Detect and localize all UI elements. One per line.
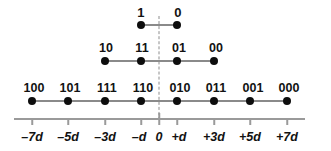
row-2-label-3: 00 [209,42,223,55]
row-2-point-0 [101,57,109,65]
axis-tick-2 [104,118,106,125]
row-1-point-1 [173,21,181,29]
row-3-point-5 [210,97,218,105]
axis-tick-label-4: 0 [156,131,163,144]
axis-tick-1 [67,118,69,125]
row-3-label-0: 100 [23,82,44,95]
row-2-point-1 [137,57,145,65]
row-1-label-1: 0 [174,6,181,19]
axis-tick-label-1: –5d [57,131,79,144]
axis-tick-label-8: +7d [276,131,298,144]
axis-tick-4 [158,113,160,125]
row-3-point-2 [101,97,109,105]
row-2-connector [105,60,214,62]
row-3-label-5: 011 [206,82,226,95]
row-2-point-3 [210,57,218,65]
row-3-label-4: 010 [169,82,190,95]
axis-tick-7 [249,118,251,125]
axis-tick-label-5: +d [172,131,187,144]
row-3-point-0 [28,97,36,105]
axis-tick-label-0: –7d [21,131,43,144]
row-2-label-1: 11 [135,42,148,55]
axis-tick-label-2: –3d [94,131,116,144]
row-3-label-7: 000 [278,82,299,95]
axis-tick-6 [213,118,215,125]
row-3-label-3: 110 [133,82,153,95]
axis-tick-0 [31,118,33,125]
row-3-point-7 [283,97,291,105]
axis-tick-label-3: –d [132,131,147,144]
row-3-label-2: 111 [97,82,117,95]
zero-reference-dashed-line [159,16,160,120]
row-2-label-0: 10 [99,42,113,55]
axis-tick-5 [176,118,178,125]
row-1-point-0 [137,21,145,29]
row-2-label-2: 01 [172,42,186,55]
row-3-label-1: 101 [59,82,80,95]
row-3-point-4 [173,97,181,105]
axis-tick-label-6: +3d [203,131,225,144]
row-3-point-6 [246,97,254,105]
row-1-label-0: 1 [137,6,144,19]
axis-tick-8 [286,118,288,125]
constellation-diagram: 1 0 10 11 01 00 100 101 111 110 010 011 … [0,0,331,151]
axis-tick-label-7: +5d [239,131,261,144]
row-3-label-6: 001 [242,82,263,95]
row-3-point-3 [137,97,145,105]
row-3-point-1 [64,97,72,105]
axis-tick-3 [140,118,142,125]
row-2-point-2 [173,57,181,65]
